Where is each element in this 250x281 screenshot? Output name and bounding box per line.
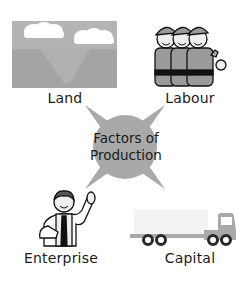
factor-land-label: Land — [30, 90, 100, 106]
factor-capital-label: Capital — [155, 250, 225, 266]
factor-capital — [128, 208, 243, 246]
factor-labour-label: Labour — [155, 90, 225, 106]
workers-icon — [153, 15, 228, 87]
center-title: Factors of Production — [88, 130, 164, 164]
center-title-line2: Production — [88, 147, 164, 164]
factor-enterprise-label: Enterprise — [18, 250, 104, 266]
factor-enterprise — [38, 188, 96, 248]
factor-labour — [153, 15, 228, 87]
center-title-line1: Factors of — [88, 130, 164, 147]
landscape-icon — [12, 21, 117, 88]
truck-icon — [128, 208, 243, 246]
factor-land — [12, 21, 117, 88]
businessman-icon — [38, 188, 96, 248]
